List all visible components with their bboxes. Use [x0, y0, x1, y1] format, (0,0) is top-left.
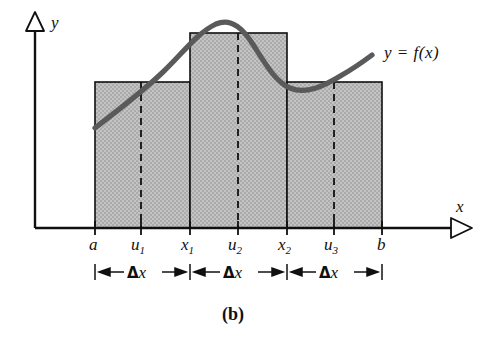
tick-label-u3: u3 — [324, 236, 338, 256]
tick-label-b: b — [377, 236, 386, 253]
delta-x-label-3: Δx — [319, 264, 338, 281]
y-axis-arrowhead — [26, 12, 44, 31]
delta-x-label-2: Δx — [223, 264, 242, 281]
tick-label-u2: u2 — [228, 236, 242, 256]
tick-label-u1: u1 — [131, 236, 145, 256]
tick-label-a: a — [89, 236, 98, 253]
delta-x-label-1: Δx — [127, 264, 146, 281]
x-axis-label: x — [456, 198, 464, 215]
x-axis-arrowhead — [451, 218, 472, 238]
tick-label-x1: x1 — [181, 236, 194, 256]
y-axis-label: y — [51, 14, 59, 31]
curve-label: y = f(x) — [384, 44, 439, 61]
y-axis — [26, 12, 44, 228]
figure-caption: (b) — [222, 305, 244, 323]
riemann-sum-figure: y x y = f(x) a u1 x1 u2 x2 u3 b Δx Δx Δx… — [0, 0, 494, 339]
riemann-rect-1 — [95, 82, 190, 228]
tick-label-x2: x2 — [278, 236, 291, 256]
